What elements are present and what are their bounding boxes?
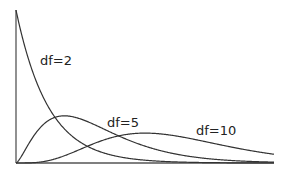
chi-square-chart: df=2 df=5 df=10 — [0, 0, 285, 175]
label-df10: df=10 — [196, 123, 236, 138]
label-df5: df=5 — [107, 115, 139, 130]
label-df2: df=2 — [40, 53, 72, 68]
curve-df2 — [16, 10, 274, 163]
